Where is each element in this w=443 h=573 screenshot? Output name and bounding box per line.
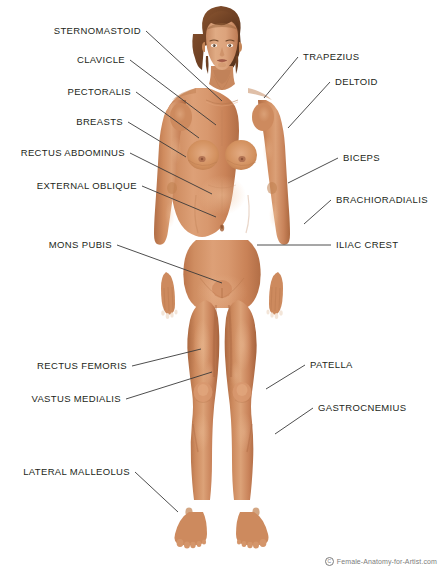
label-vastus-medialis: VASTUS MEDIALIS [0, 394, 121, 404]
label-trapezius: TRAPEZIUS [303, 52, 359, 62]
label-deltoid: DELTOID [335, 77, 378, 87]
label-brachioradialis: BRACHIORADIALIS [336, 195, 428, 205]
label-gastrocnemius: GASTROCNEMIUS [318, 403, 406, 413]
label-sternomastoid: STERNOMASTOID [0, 26, 141, 36]
label-pectoralis: PECTORALIS [0, 87, 131, 97]
label-rectus-femoris: RECTUS FEMORIS [0, 361, 127, 371]
anatomy-diagram-page: STERNOMASTOIDCLAVICLEPECTORALISBREASTSRE… [0, 0, 443, 573]
label-mons-pubis: MONS PUBIS [0, 240, 112, 250]
copyright-notice: C Female-Anatomy-for-Artist.com [325, 557, 437, 566]
label-lateral-malleolus: LATERAL MALLEOLUS [0, 467, 130, 477]
label-external-oblique: EXTERNAL OBLIQUE [0, 181, 137, 191]
copyright-icon: C [325, 557, 334, 566]
label-biceps: BICEPS [343, 153, 380, 163]
copyright-text: Female-Anatomy-for-Artist.com [337, 558, 437, 565]
label-clavicle: CLAVICLE [0, 55, 125, 65]
label-breasts: BREASTS [0, 117, 123, 127]
label-rectus-abdominus: RECTUS ABDOMINUS [0, 148, 125, 158]
label-iliac-crest: ILIAC CREST [336, 240, 398, 250]
label-patella: PATELLA [310, 360, 353, 370]
